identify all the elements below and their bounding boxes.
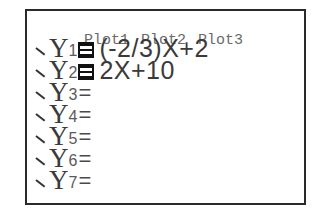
graph-style-line-icon[interactable] — [33, 85, 48, 103]
function-name: Y — [49, 169, 69, 191]
function-index: 6 — [69, 153, 78, 169]
graph-style-line-icon[interactable] — [33, 129, 48, 147]
graph-style-line-icon[interactable] — [33, 173, 48, 191]
equals-sign[interactable]: = — [78, 105, 91, 125]
function-index: 1 — [69, 43, 78, 59]
function-index: 3 — [69, 87, 78, 103]
equals-sign[interactable]: = — [78, 149, 91, 169]
function-index: 2 — [69, 65, 78, 81]
function-row-y7[interactable]: Y 7 = — [33, 169, 91, 191]
function-index: 4 — [69, 109, 78, 125]
graph-style-line-icon[interactable] — [33, 107, 48, 125]
function-index: 5 — [69, 131, 78, 147]
calculator-y-editor-screen: Plot1Plot2Plot3 Y 1 (-2/3)X+2 Y 2 2X+10 … — [25, 9, 306, 205]
function-index: 7 — [69, 175, 78, 191]
graph-style-line-icon[interactable] — [33, 63, 48, 81]
graph-style-line-icon[interactable] — [33, 151, 48, 169]
equals-sign[interactable]: = — [78, 171, 91, 191]
equals-selected-icon[interactable] — [78, 42, 94, 58]
equals-sign[interactable]: = — [78, 127, 91, 147]
equals-sign[interactable]: = — [78, 83, 91, 103]
equals-selected-icon[interactable] — [78, 64, 94, 80]
function-expression[interactable]: 2X+10 — [99, 59, 175, 81]
graph-style-line-icon[interactable] — [33, 41, 48, 59]
